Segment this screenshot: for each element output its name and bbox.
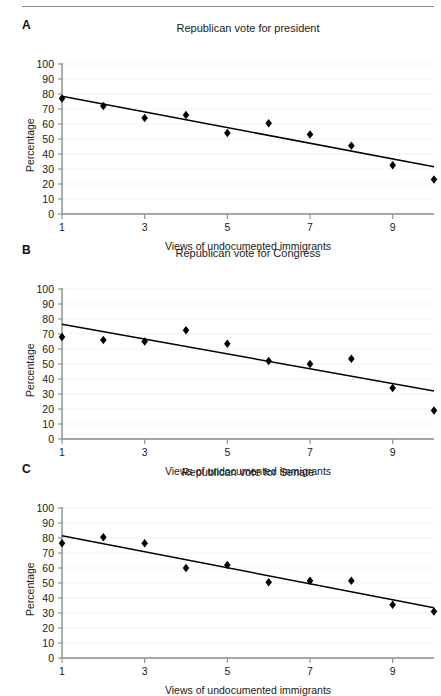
- y-tick-label: 70: [42, 328, 54, 340]
- x-tick-label: 3: [142, 665, 148, 677]
- y-tick-label: 60: [42, 118, 54, 130]
- y-tick-label: 80: [42, 313, 54, 325]
- data-point-marker: [348, 355, 355, 363]
- data-point-marker: [431, 406, 438, 414]
- y-tick-label: 30: [42, 388, 54, 400]
- y-tick-label: 10: [42, 637, 54, 649]
- data-point-marker: [183, 111, 190, 119]
- data-point-marker: [59, 94, 66, 102]
- data-point-marker: [183, 326, 190, 334]
- data-point-marker: [183, 564, 190, 572]
- y-tick-label: 70: [42, 547, 54, 559]
- x-tick-label: 9: [390, 446, 396, 458]
- data-point-marker: [307, 130, 314, 138]
- data-point-marker: [389, 601, 396, 609]
- x-tick-label: 3: [142, 221, 148, 233]
- x-tick-label: 7: [307, 221, 313, 233]
- plot-area: 010203040506070809010013579: [0, 243, 441, 458]
- y-tick-label: 20: [42, 178, 54, 190]
- y-tick-label: 0: [48, 208, 54, 220]
- y-tick-label: 50: [42, 133, 54, 145]
- x-tick-label: 1: [59, 446, 65, 458]
- y-tick-label: 30: [42, 163, 54, 175]
- y-tick-label: 70: [42, 103, 54, 115]
- data-point-marker: [389, 161, 396, 169]
- x-tick-label: 7: [307, 665, 313, 677]
- y-tick-label: 50: [42, 577, 54, 589]
- y-tick-label: 60: [42, 343, 54, 355]
- data-point-marker: [141, 539, 148, 547]
- y-tick-label: 100: [36, 283, 54, 295]
- y-tick-label: 80: [42, 88, 54, 100]
- y-tick-label: 50: [42, 358, 54, 370]
- data-point-marker: [431, 175, 438, 183]
- y-tick-label: 40: [42, 373, 54, 385]
- plot-area: 010203040506070809010013579: [0, 462, 441, 677]
- data-point-marker: [100, 533, 107, 541]
- y-tick-label: 30: [42, 607, 54, 619]
- y-tick-label: 40: [42, 148, 54, 160]
- x-axis-label: Views of undocumented immigrants: [62, 684, 434, 696]
- y-tick-label: 80: [42, 532, 54, 544]
- x-tick-label: 7: [307, 446, 313, 458]
- data-point-marker: [348, 577, 355, 585]
- panel-c: CRepublican vote for SenatePercentageVie…: [0, 462, 441, 677]
- y-tick-label: 10: [42, 418, 54, 430]
- trend-line: [62, 96, 434, 167]
- x-tick-label: 5: [224, 446, 230, 458]
- x-tick-label: 9: [390, 665, 396, 677]
- y-tick-label: 0: [48, 433, 54, 445]
- x-tick-label: 5: [224, 221, 230, 233]
- trend-line: [62, 536, 434, 608]
- data-point-marker: [307, 360, 314, 368]
- data-point-marker: [389, 384, 396, 392]
- data-point-marker: [141, 114, 148, 122]
- y-tick-label: 0: [48, 652, 54, 664]
- y-tick-label: 10: [42, 193, 54, 205]
- y-tick-label: 90: [42, 298, 54, 310]
- y-tick-label: 60: [42, 562, 54, 574]
- y-tick-label: 90: [42, 73, 54, 85]
- header-divider: [22, 6, 434, 7]
- x-tick-label: 3: [142, 446, 148, 458]
- x-tick-label: 1: [59, 221, 65, 233]
- data-point-marker: [431, 607, 438, 615]
- y-tick-label: 20: [42, 403, 54, 415]
- data-point-marker: [265, 119, 272, 127]
- panel-a: ARepublican vote for presidentPercentage…: [0, 18, 441, 233]
- y-tick-label: 40: [42, 592, 54, 604]
- data-point-marker: [59, 539, 66, 547]
- y-tick-label: 20: [42, 622, 54, 634]
- data-point-marker: [348, 142, 355, 150]
- data-point-marker: [265, 578, 272, 586]
- plot-area: 010203040506070809010013579: [0, 18, 441, 233]
- data-point-marker: [100, 336, 107, 344]
- data-point-marker: [224, 340, 231, 348]
- y-tick-label: 100: [36, 58, 54, 70]
- panel-b: BRepublican vote for CongressPercentageV…: [0, 243, 441, 458]
- x-tick-label: 5: [224, 665, 230, 677]
- y-tick-label: 90: [42, 517, 54, 529]
- data-point-marker: [224, 129, 231, 137]
- x-tick-label: 9: [390, 221, 396, 233]
- x-tick-label: 1: [59, 665, 65, 677]
- y-tick-label: 100: [36, 502, 54, 514]
